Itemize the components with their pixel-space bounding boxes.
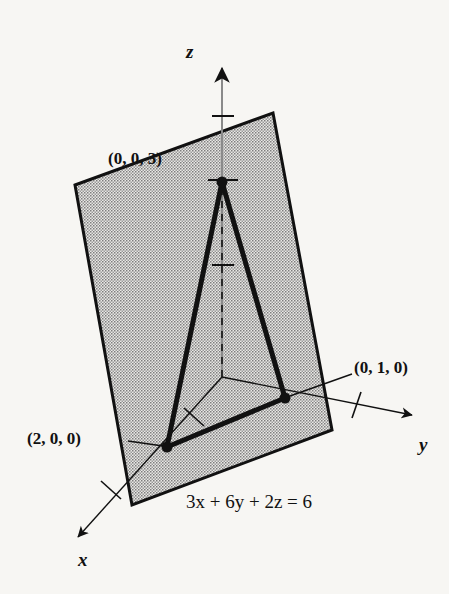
plane-equation-label: 3x + 6y + 2z = 6 [186, 492, 312, 511]
point-label-z-intercept: (0, 0, 3) [108, 150, 162, 167]
vertex-y-intercept [280, 393, 291, 404]
axis-label-x: x [78, 550, 88, 569]
axis-label-y: y [419, 435, 427, 454]
plane-patch [75, 113, 332, 505]
point-label-x-intercept: (2, 0, 0) [27, 430, 81, 447]
vertex-z-intercept [217, 177, 228, 188]
axis-x-tick-2 [101, 481, 121, 499]
plane-polygon [75, 113, 332, 505]
vertex-x-intercept [162, 442, 173, 453]
point-label-y-intercept: (0, 1, 0) [354, 359, 408, 376]
figure-canvas: z y x (0, 0, 3) (0, 1, 0) (2, 0, 0) 3x +… [0, 0, 449, 594]
axis-label-z: z [186, 42, 193, 61]
